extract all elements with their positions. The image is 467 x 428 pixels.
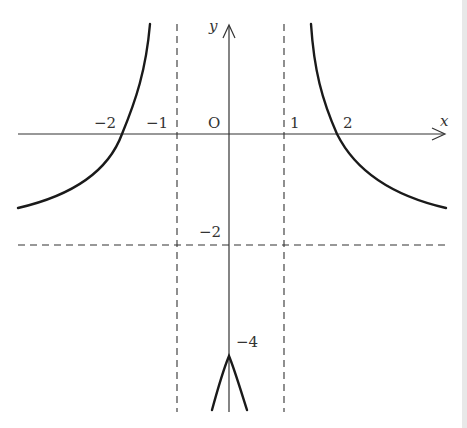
left-branch-curve	[18, 24, 150, 208]
x-tick-minus-2: −2	[94, 114, 116, 132]
x-tick-1: 1	[290, 114, 300, 132]
origin-label: O	[208, 114, 220, 132]
right-branch-curve	[311, 24, 446, 208]
page-edge	[462, 0, 467, 428]
y-tick-minus-2: −2	[199, 223, 221, 241]
x-axis-label: x	[440, 112, 449, 130]
y-tick-minus-4: −4	[236, 333, 258, 351]
x-tick-minus-1: −1	[146, 114, 168, 132]
x-tick-2: 2	[343, 114, 353, 132]
function-graph: y x O −2 −1 1 2 −2 −4	[0, 0, 467, 428]
y-axis-label: y	[208, 17, 218, 35]
